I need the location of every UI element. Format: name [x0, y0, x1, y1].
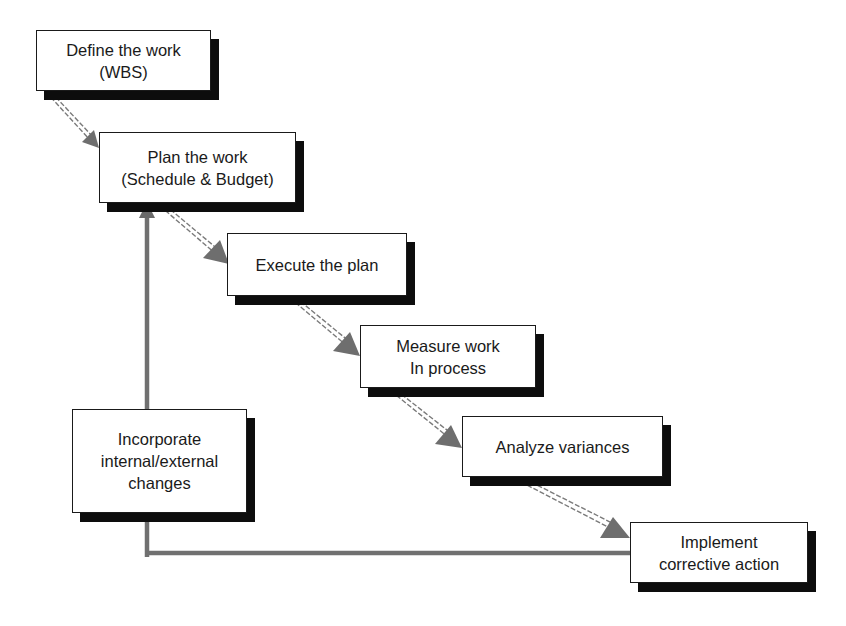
- process-flow-diagram: Define the work (WBS) Plan the work (Sch…: [0, 0, 846, 626]
- node-analyze-variances[interactable]: Analyze variances: [462, 416, 663, 477]
- node-execute-the-plan[interactable]: Execute the plan: [227, 233, 407, 296]
- node-measure-work[interactable]: Measure work In process: [360, 325, 536, 388]
- node-label: Measure work In process: [396, 335, 500, 379]
- feedback-arrow-incorporate-to-plan: [139, 202, 155, 410]
- node-label: Execute the plan: [256, 254, 379, 276]
- node-label: Incorporate internal/external changes: [101, 428, 218, 494]
- node-label: Analyze variances: [496, 436, 630, 458]
- node-incorporate-changes[interactable]: Incorporate internal/external changes: [72, 409, 247, 513]
- arrow-execute-to-measure: [290, 297, 360, 356]
- arrow-analyze-to-implement: [521, 479, 630, 538]
- arrow-plan-to-execute: [160, 205, 229, 264]
- node-label: Plan the work (Schedule & Budget): [121, 146, 273, 190]
- node-label: Define the work (WBS): [66, 39, 181, 83]
- node-plan-the-work[interactable]: Plan the work (Schedule & Budget): [99, 132, 296, 203]
- node-define-the-work[interactable]: Define the work (WBS): [36, 30, 211, 91]
- arrow-measure-to-analyze: [391, 390, 462, 448]
- node-label: Implement corrective action: [659, 531, 779, 575]
- node-implement-corrective-action[interactable]: Implement corrective action: [630, 522, 808, 583]
- arrow-define-to-plan: [46, 92, 99, 148]
- feedback-line-implement-to-incorporate: [145, 512, 630, 557]
